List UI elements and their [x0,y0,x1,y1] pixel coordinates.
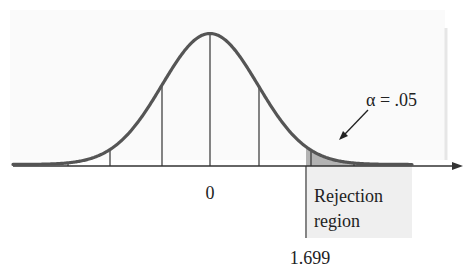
plot-background [10,10,445,160]
critical-value-label: 1.699 [290,248,331,268]
chart-svg: α = .05 0 Rejection region 1.699 [0,0,469,278]
x-axis-arrow-icon [452,162,463,170]
center-tick-label: 0 [206,183,215,203]
rejection-region-label-line2: region [314,211,360,231]
alpha-label: α = .05 [366,90,417,110]
t-distribution-chart: α = .05 0 Rejection region 1.699 [0,0,469,278]
rejection-region-label-line1: Rejection [314,186,383,206]
